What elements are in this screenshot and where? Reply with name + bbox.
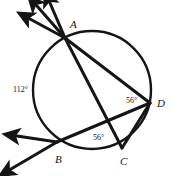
geometry-canvas: A B C D 112° 56° 56° [0,0,173,176]
angle-label-at-D-56: 56° [126,96,137,105]
secant-A-C [65,38,122,148]
angle-label-at-C-56: 56° [93,133,104,142]
ray-from-B-left [17,136,57,142]
vertex-label-A: A [69,18,77,30]
chord-A-D [65,38,150,103]
vertex-label-C: C [120,155,128,167]
geometry-figure: A B C D 112° 56° 56° [0,0,173,176]
vertex-label-B: B [55,153,62,165]
vertex-label-D: D [156,97,165,109]
ray-from-A-up [37,6,65,38]
ray-from-B-lower-left [11,142,57,169]
angle-label-arc-112: 112° [13,85,28,94]
